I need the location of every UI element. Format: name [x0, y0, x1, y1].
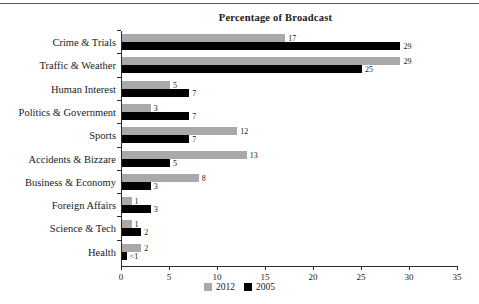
x-tick-5	[169, 266, 170, 270]
category-label-6: Business & Economy	[25, 176, 116, 187]
bar-2012-4	[122, 127, 237, 135]
y-tick-2	[117, 77, 121, 78]
x-tick-label-0: 0	[119, 272, 124, 282]
bar-2005-9	[122, 252, 127, 260]
x-tick-20	[313, 266, 314, 270]
x-tick-35	[457, 266, 458, 270]
category-labels: Crime & TrialsTraffic & WeatherHuman Int…	[0, 31, 116, 266]
bar-2012-3	[122, 104, 151, 112]
bar-2005-0	[122, 42, 400, 50]
bar-2005-6	[122, 182, 151, 190]
x-tick-label-15: 15	[261, 272, 270, 282]
legend-label-2005: 2005	[256, 282, 275, 292]
bar-value-2005-4: 7	[192, 135, 196, 144]
bar-value-2012-5: 13	[250, 150, 258, 159]
bar-value-2005-2: 7	[192, 88, 196, 97]
bar-value-2005-5: 5	[173, 158, 177, 167]
bar-value-2005-0: 29	[403, 42, 411, 51]
x-tick-label-35: 35	[453, 272, 462, 282]
bar-2012-8	[122, 220, 132, 228]
y-tick-5	[117, 147, 121, 148]
x-tick-label-25: 25	[357, 272, 366, 282]
y-tick-0	[117, 30, 121, 31]
legend-item-2005: 2005	[244, 282, 275, 292]
x-tick-10	[217, 266, 218, 270]
bar-2005-5	[122, 159, 170, 167]
y-tick-7	[117, 193, 121, 194]
bar-2005-8	[122, 228, 141, 236]
bar-value-2005-9: <1	[130, 251, 139, 260]
legend-item-2012: 2012	[204, 282, 235, 292]
chart-title: Percentage of Broadcast	[0, 12, 479, 23]
top-divider	[0, 3, 479, 4]
category-label-7: Foreign Affairs	[52, 200, 116, 211]
bar-2012-7	[122, 197, 132, 205]
bar-value-2005-6: 3	[154, 181, 158, 190]
x-tick-25	[361, 266, 362, 270]
bar-2005-7	[122, 205, 151, 213]
bar-value-2005-8: 2	[144, 228, 148, 237]
legend-swatch-2012	[204, 283, 212, 291]
x-tick-label-5: 5	[167, 272, 172, 282]
y-tick-9	[117, 240, 121, 241]
y-tick-4	[117, 123, 121, 124]
plot-area: 05101520253035 Crime & TrialsTraffic & W…	[121, 31, 457, 266]
bar-2012-0	[122, 34, 285, 42]
category-label-1: Traffic & Weather	[39, 60, 116, 71]
bar-2005-2	[122, 89, 189, 97]
chart-page: Percentage of Broadcast 05101520253035 C…	[0, 0, 479, 304]
legend-label-2012: 2012	[216, 282, 235, 292]
bar-2012-5	[122, 151, 247, 159]
y-tick-6	[117, 170, 121, 171]
category-label-8: Science & Tech	[50, 223, 116, 234]
bar-value-2012-4: 12	[240, 127, 248, 136]
bar-2012-6	[122, 174, 199, 182]
category-label-0: Crime & Trials	[52, 37, 116, 48]
category-label-3: Politics & Government	[19, 106, 116, 117]
bar-2012-1	[122, 57, 400, 65]
category-label-2: Human Interest	[51, 83, 116, 94]
category-label-4: Sports	[89, 130, 116, 141]
x-tick-15	[265, 266, 266, 270]
x-tick-label-30: 30	[405, 272, 414, 282]
bar-2012-2	[122, 81, 170, 89]
bar-value-2012-6: 8	[202, 173, 206, 182]
bar-value-2005-1: 25	[365, 65, 373, 74]
bar-value-2012-9: 2	[144, 243, 148, 252]
bar-2005-4	[122, 135, 189, 143]
legend-swatch-2005	[244, 283, 252, 291]
x-tick-label-10: 10	[213, 272, 222, 282]
x-tick-label-20: 20	[309, 272, 318, 282]
x-tick-0	[121, 266, 122, 270]
x-axis-line	[121, 266, 458, 267]
y-tick-8	[117, 216, 121, 217]
y-tick-3	[117, 100, 121, 101]
category-label-9: Health	[88, 246, 116, 257]
category-label-5: Accidents & Bizzare	[29, 153, 116, 164]
bar-value-2005-7: 3	[154, 205, 158, 214]
chart-legend: 20122005	[0, 282, 479, 292]
bar-value-2012-1: 29	[403, 57, 411, 66]
bar-2005-1	[122, 65, 362, 73]
y-tick-1	[117, 53, 121, 54]
x-tick-30	[409, 266, 410, 270]
bar-2005-3	[122, 112, 189, 120]
bar-value-2005-3: 7	[192, 111, 196, 120]
